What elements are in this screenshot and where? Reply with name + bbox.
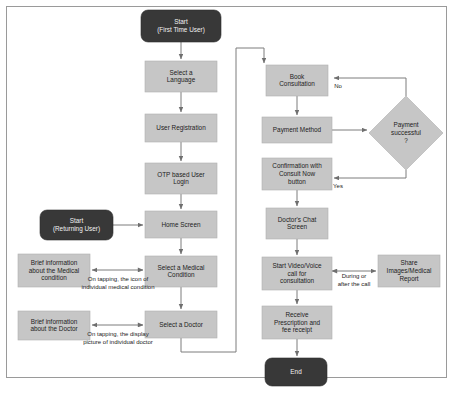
node-briefdoc[interactable]: Brief informationabout the Doctor: [18, 311, 90, 340]
node-label: User Registration: [156, 124, 206, 132]
connector: [334, 78, 406, 96]
node-receipt[interactable]: ReceivePrescription andfee receipt: [262, 306, 332, 339]
edge-label-lbl-no: No: [334, 83, 342, 89]
flowchart-canvas: Start(First Time User)Select aLanguageUs…: [0, 0, 457, 401]
edge-label-lbl-tap-cond: On tapping, the icon ofindividual medica…: [81, 275, 154, 289]
connector: [181, 48, 264, 352]
connector: [334, 170, 406, 178]
node-reg[interactable]: User Registration: [145, 114, 217, 142]
node-otp[interactable]: OTP based UserLogin: [145, 163, 217, 194]
node-briefcond[interactable]: Brief informationabout the Medicalcondit…: [18, 254, 90, 287]
node-confirm[interactable]: Confirmation withConsult Nowbutton: [262, 158, 332, 190]
edge-label-lbl-tap-doc: On tapping, the displaypicture of indivi…: [83, 330, 153, 344]
node-label: End: [290, 368, 302, 375]
flowchart-svg: Start(First Time User)Select aLanguageUs…: [0, 0, 457, 401]
node-label: Select a Doctor: [159, 320, 204, 327]
node-seldoc[interactable]: Select a Doctor: [145, 311, 217, 338]
node-chat[interactable]: Doctor's ChatScreen: [266, 208, 328, 239]
edge-label-lbl-during: During orafter the call: [338, 272, 371, 286]
node-paysucc[interactable]: Paymentsuccessful?: [369, 96, 443, 170]
node-label: Home Screen: [161, 220, 201, 227]
node-call[interactable]: Start Video/Voicecall forconsultation: [262, 257, 332, 290]
node-home[interactable]: Home Screen: [145, 211, 217, 238]
node-start1[interactable]: Start(First Time User): [141, 10, 221, 42]
connector-layer: [92, 42, 406, 356]
node-pay[interactable]: Payment Method: [262, 117, 332, 143]
node-label: Select aLanguage: [167, 68, 196, 84]
node-book[interactable]: BookConsultation: [266, 65, 328, 96]
node-end[interactable]: End: [265, 358, 327, 386]
node-layer: Start(First Time User)Select aLanguageUs…: [18, 10, 443, 386]
node-lang[interactable]: Select aLanguage: [145, 61, 217, 92]
node-label: Brief informationabout the Doctor: [30, 317, 78, 332]
node-share[interactable]: ShareImages/MedicalReport: [378, 255, 440, 287]
edge-label-lbl-yes: Yes: [333, 183, 343, 189]
node-label: Payment Method: [273, 126, 322, 134]
node-start2[interactable]: Start(Returning User): [40, 210, 113, 240]
node-medcond[interactable]: Select a MedicalCondition: [145, 256, 217, 287]
